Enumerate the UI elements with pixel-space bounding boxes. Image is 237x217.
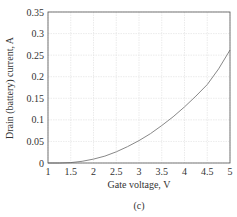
data-series [48,50,230,163]
y-tick-label: 0.1 [32,114,45,125]
y-tick-label: 0.2 [32,71,45,82]
x-tick-label: 3.5 [156,166,169,177]
figure-caption: (c) [133,200,144,212]
y-tick-labels: 00.050.10.150.20.250.30.35 [27,7,45,169]
y-axis-label: Drain (battery) current, A [4,36,16,139]
x-tick-label: 2 [91,166,96,177]
x-tick-label: 2.5 [110,166,123,177]
x-tick-label: 1.5 [65,166,78,177]
x-axis-label: Gate voltage, V [108,179,172,190]
x-tick-label: 4 [182,166,187,177]
y-tick-label: 0 [39,158,44,169]
x-tick-label: 4.5 [201,166,214,177]
x-tick-label: 5 [228,166,233,177]
y-tick-label: 0.25 [27,50,45,61]
drain-current-line [48,50,230,163]
y-tick-label: 0.15 [27,93,45,104]
x-tick-label: 1 [46,166,51,177]
y-tick-label: 0.35 [27,7,45,18]
y-tick-label: 0.05 [27,136,45,147]
drain-current-chart: 11.522.533.544.55 00.050.10.150.20.250.3… [0,0,237,217]
x-tick-label: 3 [137,166,142,177]
y-tick-label: 0.3 [32,28,45,39]
x-tick-labels: 11.522.533.544.55 [46,166,233,177]
